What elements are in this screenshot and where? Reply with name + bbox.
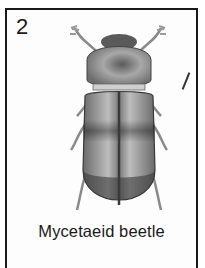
beetle-illustration (57, 20, 187, 220)
caption: Mycetaeid beetle (7, 222, 196, 241)
specimen-card: 2 (5, 8, 198, 268)
card-number: 2 (16, 16, 28, 38)
